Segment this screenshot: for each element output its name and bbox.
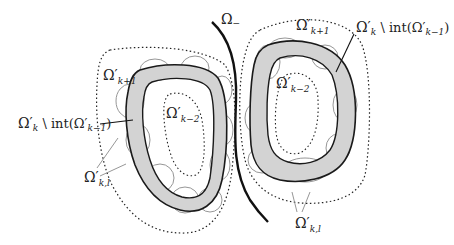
right-circles-label: Ω′k,l [295, 215, 321, 234]
right-circles-leader-2 [302, 192, 310, 212]
left-inner-label: Ω′k−2 [166, 105, 200, 124]
left-outer-label: Ω′k+1 [103, 67, 137, 86]
right-inner-label: Ω′k−2 [276, 75, 310, 94]
omega-minus-label: Ω− [221, 11, 240, 28]
right-outer-label: Ω′k+1 [296, 17, 330, 36]
right-band-label: Ω′k \ int(Ω′k−1) [356, 19, 449, 37]
right-circles-leader-1 [292, 192, 297, 212]
left-circles-leader-2 [100, 164, 126, 176]
right-shaded-band [250, 41, 356, 181]
right-component [240, 20, 370, 212]
domain-diagram: Ω− Ω′k+1 Ω′k−2 Ω′k \ int(Ω′k−1) Ω′k,l Ω′… [0, 0, 454, 245]
left-circles-label: Ω′k,l [84, 169, 110, 188]
